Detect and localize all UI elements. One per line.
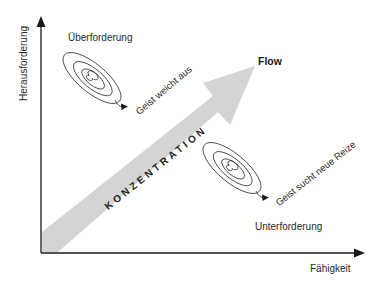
x-axis-label: Fähigkeit xyxy=(310,264,351,274)
underload-region-label: Unterforderung xyxy=(255,222,322,232)
spiral-overload-arrowhead-icon xyxy=(121,104,128,111)
spiral-underload-arrowhead-icon xyxy=(262,195,269,202)
y-axis-arrowhead-icon xyxy=(37,16,46,27)
x-axis-arrowhead-icon xyxy=(354,249,365,258)
y-axis-label: Herausforderung xyxy=(19,26,29,101)
x-axis xyxy=(41,249,365,258)
flow-label: Flow xyxy=(258,56,282,67)
spiral-overload-icon xyxy=(55,44,128,112)
y-axis xyxy=(37,16,46,253)
overload-region-label: Überforderung xyxy=(68,33,132,43)
spiral-underload-icon xyxy=(195,134,269,202)
